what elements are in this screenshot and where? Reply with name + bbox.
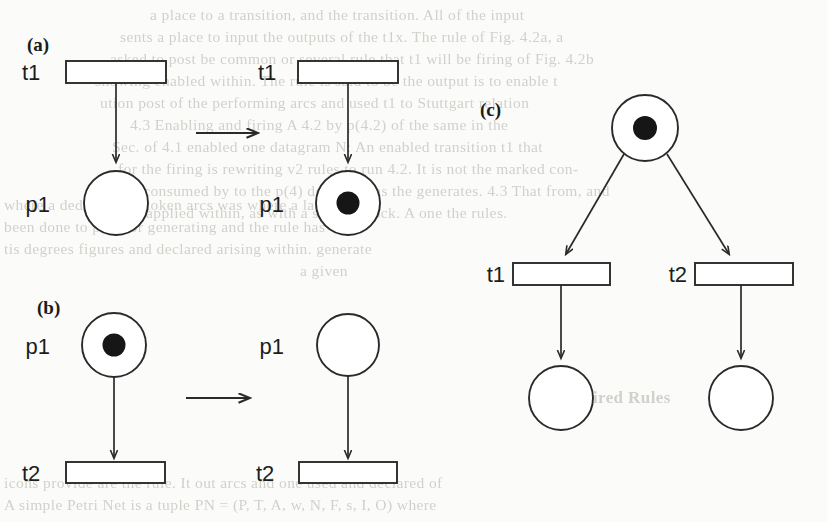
panel-b: (b) p1 t2 p1 t2 [22,297,397,486]
panel-c: (c) t1 t2 [480,95,793,430]
transition-label-t2: t2 [669,262,687,287]
transition-t1[interactable] [66,61,166,83]
place-p1[interactable] [84,171,148,235]
token-dot [103,334,126,357]
panel-c-label: (c) [480,99,501,121]
token-dot [633,116,657,140]
transition-t2[interactable] [299,462,397,483]
panel-b-after: p1 t2 [256,314,397,486]
panel-b-before: p1 t2 [22,313,165,486]
place-label-p1: p1 [26,192,50,217]
token-dot [337,192,360,215]
place-output-2[interactable] [709,366,773,430]
figure-page: a place to a transition, and the transit… [0,0,827,522]
panel-a-label: (a) [27,34,49,56]
transition-label-t1: t1 [22,60,40,85]
transition-t1[interactable] [513,263,610,285]
panel-b-label: (b) [37,297,60,319]
place-label-p1: p1 [26,334,50,359]
transition-t1[interactable] [298,61,398,83]
arc-source-to-t1 [566,154,624,254]
transition-label-t2: t2 [256,461,274,486]
place-output-1[interactable] [529,366,593,430]
transition-t2[interactable] [695,263,793,285]
petri-net-figure: (a) t1 p1 t1 p1 (b) [0,0,827,522]
panel-a-after: t1 p1 [258,60,398,235]
place-label-p1: p1 [260,192,284,217]
transition-label-t1: t1 [487,262,505,287]
place-label-p1: p1 [260,334,284,359]
transition-label-t1: t1 [258,60,276,85]
transition-t2[interactable] [66,462,165,483]
place-p1[interactable] [317,314,379,376]
panel-a-before: t1 p1 [22,60,166,235]
arc-source-to-t2 [667,154,729,254]
panel-a: (a) t1 p1 t1 p1 [22,34,398,235]
transition-label-t2: t2 [22,461,40,486]
